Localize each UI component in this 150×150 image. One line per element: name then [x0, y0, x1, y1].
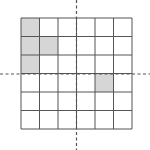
- grid-diagram: [0, 0, 150, 150]
- shaded-cell: [21, 55, 40, 74]
- shaded-cell: [21, 37, 40, 56]
- shaded-cell: [21, 18, 40, 37]
- shaded-cell: [40, 37, 59, 56]
- shaded-cell: [95, 74, 114, 93]
